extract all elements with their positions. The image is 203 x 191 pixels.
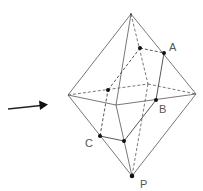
- view-direction-arrow-icon: [8, 101, 48, 111]
- point-back-mid: [106, 88, 110, 92]
- label-p: P: [140, 178, 147, 190]
- point-p: [130, 174, 135, 179]
- hidden-edges: [68, 14, 196, 176]
- octahedron-diagram: A B C P: [0, 0, 203, 191]
- point-back-top: [138, 46, 142, 50]
- top-vertex: [130, 13, 132, 15]
- points: [98, 13, 166, 178]
- cross-section: [100, 48, 164, 141]
- point-a: [162, 51, 166, 55]
- visible-edges: [68, 14, 196, 176]
- point-front-bottom: [122, 139, 126, 143]
- label-b: B: [159, 103, 166, 115]
- point-c: [98, 134, 102, 138]
- label-a: A: [169, 41, 177, 53]
- label-c: C: [85, 137, 93, 149]
- point-b: [154, 98, 158, 102]
